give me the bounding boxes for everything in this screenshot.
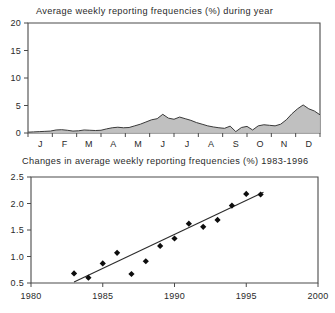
data-point [85, 275, 91, 281]
x-tick-label-1995: 1995 [236, 291, 257, 301]
plot-area-trend: 0.51.01.52.02.519801985199019952000 [11, 172, 329, 301]
y-tick-label: 0 [16, 128, 21, 138]
data-point [200, 224, 206, 230]
y-tick-label: 2.5 [11, 172, 24, 182]
x-tick-label-1980: 1980 [20, 291, 41, 301]
data-point [128, 271, 134, 277]
month-label-o-9: O [256, 139, 263, 149]
month-label-d-11: D [306, 139, 313, 149]
y-tick-label: 15 [10, 46, 21, 56]
data-point [71, 270, 77, 276]
month-label-n-10: N [281, 139, 288, 149]
plot-frame [28, 23, 320, 133]
x-tick-label-2000: 2000 [307, 291, 328, 301]
annual-trend-scatter-chart: 0.51.01.52.02.519801985199019952000 [0, 152, 335, 313]
chart-title-trend: Changes in average weekly reporting freq… [22, 156, 308, 166]
seasonal-area-chart: 05101520JFMAMJJASOND [0, 0, 335, 152]
month-label-f-1: F [62, 139, 68, 149]
month-label-m-4: M [134, 139, 142, 149]
x-tick-label-1990: 1990 [164, 291, 185, 301]
month-label-a-7: A [208, 139, 214, 149]
regression-line [74, 192, 263, 282]
y-tick-label: 1.0 [11, 252, 24, 262]
data-point [114, 250, 120, 256]
data-point [100, 260, 106, 266]
data-point [171, 235, 177, 241]
x-tick-label-1985: 1985 [92, 291, 113, 301]
figure-two-panel-chart: Average weekly reporting frequencies (%)… [0, 0, 335, 313]
month-label-s-8: S [233, 139, 239, 149]
data-point [186, 221, 192, 227]
data-point [143, 258, 149, 264]
plot-frame [31, 177, 318, 283]
y-tick-label: 1.5 [11, 225, 24, 235]
month-label-m-2: M [85, 139, 93, 149]
panel-seasonal-frequency: Average weekly reporting frequencies (%)… [0, 0, 335, 152]
y-tick-label: 10 [10, 73, 21, 83]
data-point [243, 191, 249, 197]
month-label-j-5: J [161, 139, 166, 149]
panel-annual-trend: Changes in average weekly reporting freq… [0, 152, 335, 313]
y-tick-label: 5 [16, 101, 21, 111]
y-tick-label: 20 [10, 18, 21, 28]
month-label-a-3: A [110, 139, 116, 149]
data-point [214, 217, 220, 223]
chart-title-seasonal: Average weekly reporting frequencies (%)… [36, 6, 273, 16]
month-label-j-6: J [185, 139, 190, 149]
y-tick-label: 2.0 [11, 199, 24, 209]
data-point [157, 243, 163, 249]
plot-area-seasonal: 05101520JFMAMJJASOND [10, 18, 320, 149]
month-label-j-0: J [38, 139, 43, 149]
y-tick-label: 0.5 [11, 278, 24, 288]
